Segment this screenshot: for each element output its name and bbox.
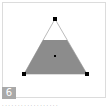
bottom-right-handle-icon[interactable] bbox=[85, 72, 89, 76]
tile-number-badge: 6 bbox=[2, 87, 16, 99]
top-handle-icon[interactable] bbox=[53, 17, 57, 21]
center-point-icon bbox=[54, 55, 56, 57]
tile-caption: · · · · · · · · · · · · · · · · · · bbox=[2, 101, 106, 109]
triangle-shape-preview bbox=[0, 0, 108, 109]
bottom-left-handle-icon[interactable] bbox=[22, 72, 26, 76]
